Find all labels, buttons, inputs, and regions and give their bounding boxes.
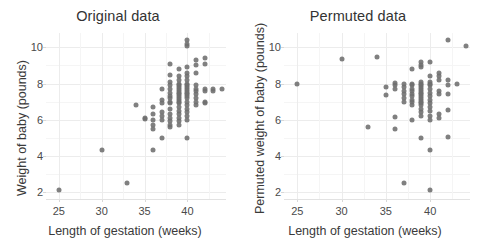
scatter-point: [410, 67, 415, 72]
scatter-point: [454, 81, 459, 86]
gridline-vertical-minor: [452, 33, 453, 199]
y-tick-label: 2: [259, 186, 281, 198]
gridline-horizontal: [46, 47, 226, 48]
scatter-point: [202, 101, 207, 106]
scatter-point: [194, 70, 199, 75]
gridline-horizontal: [284, 192, 470, 193]
gridline-vertical-minor: [319, 33, 320, 199]
scatter-point: [428, 148, 433, 153]
gridline-horizontal: [284, 47, 470, 48]
scatter-point: [437, 92, 442, 97]
y-tick-label: 8: [21, 78, 43, 90]
gridline-horizontal-minor: [284, 138, 470, 139]
x-tick-label: 40: [174, 205, 200, 217]
scatter-point: [428, 108, 433, 113]
gridline-horizontal: [46, 156, 226, 157]
x-tick-label: 40: [417, 205, 443, 217]
y-tick-label: 10: [259, 41, 281, 53]
gridline-horizontal: [46, 84, 226, 85]
gridline-vertical-minor: [123, 33, 124, 199]
gridline-vertical-minor: [80, 33, 81, 199]
scatter-point: [176, 67, 181, 72]
y-tickmark: [43, 84, 46, 85]
x-axis-label-original: Length of gestation (weeks): [22, 224, 228, 238]
scatter-point: [202, 61, 207, 66]
scatter-point: [185, 43, 190, 48]
gridline-vertical-minor: [209, 33, 210, 199]
y-tick-label: 6: [21, 114, 43, 126]
scatter-point: [202, 56, 207, 61]
scatter-point: [168, 106, 173, 111]
scatter-point: [401, 180, 406, 185]
scatter-point: [151, 112, 156, 117]
scatter-point: [194, 103, 199, 108]
scatter-point: [339, 57, 344, 62]
scatter-point: [428, 117, 433, 122]
scatter-point: [410, 103, 415, 108]
gridline-vertical: [297, 33, 298, 199]
x-tick-label: 35: [132, 205, 158, 217]
y-tickmark: [281, 192, 284, 193]
panel-title-permuted: Permuted data: [258, 8, 458, 24]
gridline-horizontal: [284, 156, 470, 157]
scatter-point: [401, 99, 406, 104]
gridline-vertical: [386, 33, 387, 199]
scatter-point: [445, 77, 450, 82]
gridline-horizontal-minor: [46, 65, 226, 66]
y-tick-label: 4: [259, 150, 281, 162]
scatter-point: [125, 180, 130, 185]
y-tick-label: 8: [259, 78, 281, 90]
gridline-horizontal: [46, 192, 226, 193]
y-tick-label: 2: [21, 186, 43, 198]
scatter-point: [219, 86, 224, 91]
scatter-point: [151, 104, 156, 109]
scatter-point: [383, 85, 388, 90]
scatter-point: [392, 126, 397, 131]
scatter-point: [159, 117, 164, 122]
x-axis-label-permuted: Length of gestation (weeks): [260, 224, 470, 238]
gridline-vertical: [59, 33, 60, 199]
plot-area-permuted: [284, 33, 470, 199]
y-tickmark: [281, 156, 284, 157]
scatter-point: [99, 148, 104, 153]
scatter-point: [410, 117, 415, 122]
gridline-horizontal: [46, 120, 226, 121]
x-tick-label: 35: [373, 205, 399, 217]
x-axis-line: [46, 199, 226, 200]
scatter-point: [445, 83, 450, 88]
scatter-point: [202, 88, 207, 93]
scatter-point: [392, 114, 397, 119]
scatter-point: [445, 134, 450, 139]
scatter-point: [56, 187, 61, 192]
scatter-point: [211, 88, 216, 93]
scatter-point: [168, 101, 173, 106]
scatter-point: [159, 101, 164, 106]
scatter-point: [375, 55, 380, 60]
panel-original-data: Original data Weight of baby (pounds) Le…: [0, 0, 240, 244]
scatter-point: [168, 72, 173, 77]
y-tickmark: [43, 47, 46, 48]
scatter-point: [392, 86, 397, 91]
plot-area-original: [46, 33, 226, 199]
scatter-point: [419, 114, 424, 119]
x-axis-line: [284, 199, 470, 200]
x-tick-label: 25: [284, 205, 310, 217]
scatter-point: [185, 65, 190, 70]
gridline-horizontal-minor: [46, 174, 226, 175]
gridline-horizontal-minor: [284, 102, 470, 103]
scatter-point: [134, 103, 139, 108]
gridline-horizontal-minor: [46, 138, 226, 139]
scatter-point: [437, 77, 442, 82]
panel-title-original: Original data: [18, 8, 218, 24]
y-tick-label: 6: [259, 114, 281, 126]
x-tick-label: 30: [89, 205, 115, 217]
y-tickmark: [43, 120, 46, 121]
gridline-vertical: [102, 33, 103, 199]
scatter-point: [159, 86, 164, 91]
scatter-point: [151, 126, 156, 131]
scatter-point: [185, 117, 190, 122]
scatter-point: [445, 92, 450, 97]
scatter-point: [428, 59, 433, 64]
scatter-point: [168, 124, 173, 129]
scatter-point: [419, 65, 424, 70]
